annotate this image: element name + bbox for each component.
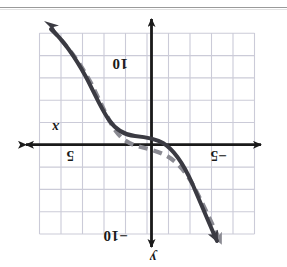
y-axis-tick-label-positive: 10 — [112, 56, 128, 71]
figure-page: 5 −5 10 −10 x y — [0, 0, 287, 267]
y-axis-tick-label-negative: −10 — [103, 228, 128, 243]
grid-lines — [40, 33, 255, 234]
y-axis-name-label: y — [150, 250, 156, 264]
page-top-rule — [0, 7, 287, 8]
x-axis-tick-label-negative: −5 — [210, 148, 227, 163]
graph-figure: 5 −5 10 −10 x y — [0, 12, 287, 267]
x-axis-name-label: x — [52, 120, 59, 134]
x-axis-tick-label-positive: 5 — [66, 148, 74, 163]
page-top-rule-shadow — [0, 9, 287, 10]
solid-cubic-curve — [51, 29, 217, 241]
coordinate-plot — [0, 12, 287, 267]
